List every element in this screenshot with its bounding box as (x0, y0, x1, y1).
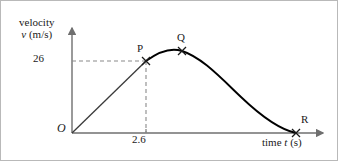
x-tick-label-2-6: 2.6 (132, 134, 146, 146)
curve-segment-P-to-R (146, 50, 296, 133)
y-axis-label-line1: velocity (19, 16, 54, 28)
x-axis-label: time t (s) (262, 137, 302, 149)
point-label-r: R (301, 114, 308, 126)
x-axis-label-prefix: time (262, 136, 284, 148)
x-axis-unit: (s) (287, 136, 301, 148)
point-label-q: Q (177, 32, 185, 44)
origin-label: O (57, 122, 66, 135)
point-label-p: P (137, 43, 143, 55)
velocity-time-graph-figure: velocity v (m/s) time t (s) 26 2.6 O P Q… (0, 0, 338, 161)
linear-segment-O-to-P (72, 61, 146, 133)
y-axis-label: velocity v (m/s) (19, 17, 54, 40)
y-axis-label-line2: v (m/s) (19, 29, 54, 41)
y-axis-unit: (m/s) (26, 28, 52, 40)
y-tick-label-26: 26 (33, 53, 44, 65)
